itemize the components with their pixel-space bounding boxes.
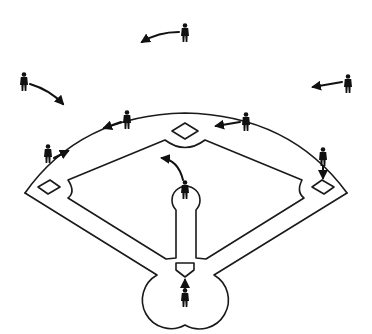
shortstop-icon [123,110,131,129]
second-base [172,123,198,139]
left-fielder-arrow-icon [30,84,63,104]
pitcher-arrow-icon [162,158,183,180]
third-baseman-icon [44,144,52,163]
center-fielder-arrow-icon [142,32,179,42]
second-baseman-arrow-icon [216,122,240,126]
shortstop-arrow-icon [104,122,121,128]
second-baseman-icon [242,112,250,131]
left-foul-dirt-edge [25,193,347,329]
center-fielder-icon [181,23,189,42]
left-fielder-icon [20,72,28,91]
home-plate [176,263,194,277]
right-fielder-arrow-icon [313,82,342,87]
third-baseman-arrow-icon [54,151,68,158]
first-base [312,180,334,194]
catcher-icon [181,288,189,307]
baseball-diagram: Baseball defensive positions with moveme… [0,0,372,334]
third-base [38,180,60,194]
right-fielder-icon [344,74,352,93]
pitcher-icon [181,180,189,199]
field-canvas [0,0,372,334]
